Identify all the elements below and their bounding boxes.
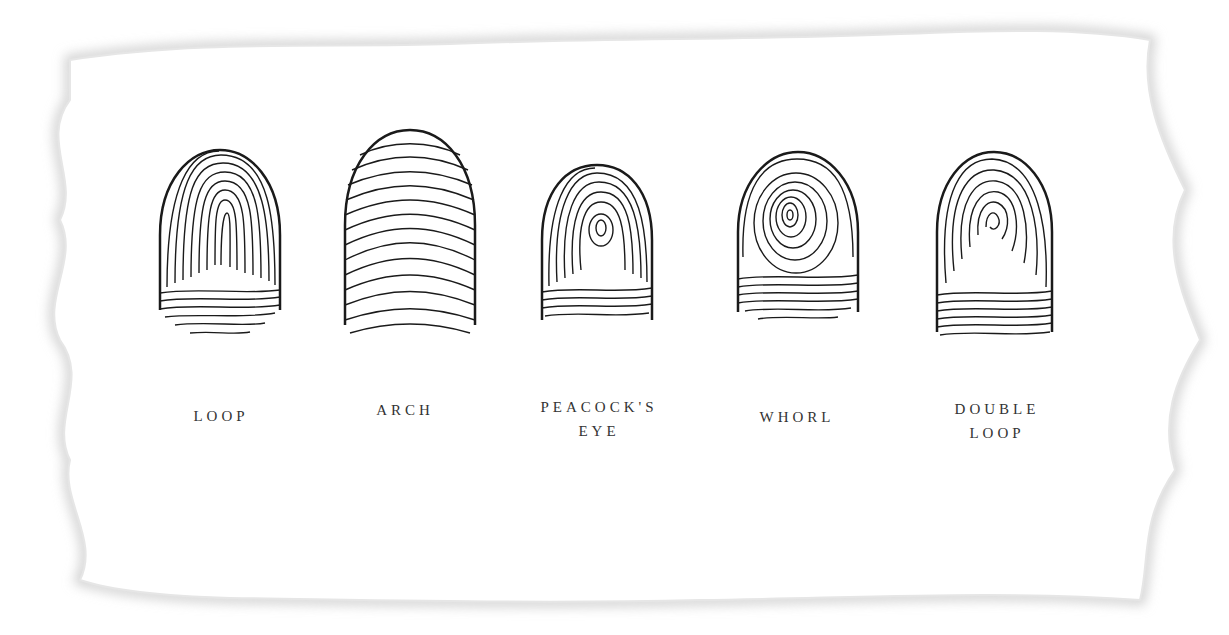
- double-loop-fingerprint-icon: [932, 147, 1057, 342]
- peacocks-eye-label: PEACOCK'S EYE: [519, 395, 679, 443]
- double-loop-label-line-2: LOOP: [917, 421, 1077, 445]
- double-loop-label-line-1: DOUBLE: [917, 397, 1077, 421]
- arch-label: ARCH: [325, 398, 485, 422]
- loop-fingerprint-icon: [155, 145, 285, 345]
- arch-fingerprint-icon: [340, 125, 480, 345]
- whorl-fingerprint-icon: [733, 147, 863, 327]
- whorl-label: WHORL: [717, 405, 877, 429]
- peacocks-eye-fingerprint-icon: [537, 160, 657, 325]
- arch-label-line: ARCH: [325, 398, 485, 422]
- loop-label: LOOP: [141, 404, 301, 428]
- peacocks-eye-label-line-1: PEACOCK'S: [519, 395, 679, 419]
- peacocks-eye-label-line-2: EYE: [519, 419, 679, 443]
- double-loop-label: DOUBLE LOOP: [917, 397, 1077, 445]
- loop-label-line: LOOP: [141, 404, 301, 428]
- whorl-label-line: WHORL: [717, 405, 877, 429]
